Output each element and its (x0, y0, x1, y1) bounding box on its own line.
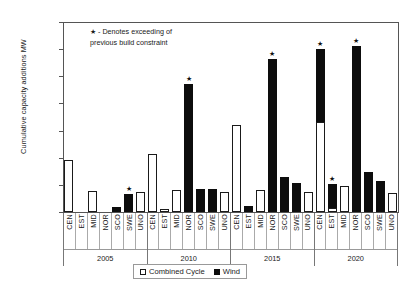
bar-slot-2015-EST[interactable] (242, 22, 254, 212)
bar-2020-SWE[interactable] (376, 181, 385, 212)
bar-slot-2010-MID[interactable] (171, 22, 183, 212)
bar-slot-2020-EST[interactable]: ★ (326, 22, 338, 212)
bar-segment-combined-cycle (172, 190, 181, 212)
bar-2010-MID[interactable] (172, 190, 181, 212)
legend-item-wind[interactable]: Wind (214, 267, 240, 276)
bar-2010-CEN[interactable] (148, 154, 157, 212)
legend-item-combined-cycle[interactable]: Combined Cycle (140, 267, 205, 276)
x-tick-label-EST: EST (243, 213, 255, 249)
x-tick-text: EST (327, 214, 336, 229)
x-tick-label-SWE: SWE (291, 213, 303, 249)
x-tick-text: NOR (101, 214, 110, 231)
bar-segment-wind (316, 49, 325, 122)
bar-segment-combined-cycle (328, 208, 337, 212)
bar-2020-EST[interactable]: ★ (328, 184, 337, 212)
x-tick-label-UNO: UNO (386, 213, 397, 249)
x-tick-text: NOR (184, 214, 193, 231)
bar-slot-2020-UNO[interactable] (386, 22, 398, 212)
x-tick-text: EST (77, 214, 86, 229)
x-tick-label-EST: EST (76, 213, 88, 249)
bar-slot-2015-SCO[interactable] (278, 22, 290, 212)
bar-2010-UNO[interactable] (220, 192, 229, 212)
bar-2005-CEN[interactable] (64, 160, 73, 212)
bar-slot-2015-SWE[interactable] (290, 22, 302, 212)
x-tick-label-EST: EST (326, 213, 338, 249)
bar-slot-2005-SWE[interactable]: ★ (123, 22, 135, 212)
x-tick-text: UNO (303, 214, 312, 231)
bar-slot-2010-UNO[interactable] (219, 22, 231, 212)
bar-segment-wind (208, 189, 217, 212)
bar-slot-2020-MID[interactable] (338, 22, 350, 212)
bar-2005-SCO[interactable] (112, 207, 121, 212)
x-group-label: 2020 (315, 249, 398, 266)
bar-2020-SCO[interactable] (364, 172, 373, 212)
bar-2020-CEN[interactable]: ★ (316, 49, 325, 212)
legend-swatch-icon (140, 269, 146, 275)
x-tick-text: CEN (148, 214, 157, 230)
bar-2010-SCO[interactable] (196, 189, 205, 212)
bar-slot-2010-EST[interactable] (159, 22, 171, 212)
bar-2010-NOR[interactable]: ★ (184, 84, 193, 212)
bar-segment-wind (280, 177, 289, 212)
bar-slot-2020-NOR[interactable]: ★ (350, 22, 362, 212)
bar-2005-MID[interactable] (88, 191, 97, 212)
bar-segment-wind (268, 59, 277, 212)
x-tick-label-CEN: CEN (64, 213, 76, 249)
bar-2010-SWE[interactable] (208, 189, 217, 212)
x-group-2020: CENESTMIDNORSCOSWEUNO2020 (314, 213, 399, 266)
bar-segment-combined-cycle (220, 192, 229, 212)
x-tick-text: EST (244, 214, 253, 229)
bar-segment-wind (352, 46, 361, 212)
bar-segment-combined-cycle (232, 125, 241, 212)
x-tick-text: NOR (268, 214, 277, 231)
bar-2020-MID[interactable] (340, 186, 349, 212)
bar-slot-2020-SCO[interactable] (362, 22, 374, 212)
bar-2015-EST[interactable] (244, 206, 253, 213)
bar-2015-CEN[interactable] (232, 125, 241, 212)
bar-slot-2005-NOR[interactable] (99, 22, 111, 212)
bar-slot-2010-SCO[interactable] (195, 22, 207, 212)
bar-slot-2010-SWE[interactable] (207, 22, 219, 212)
bar-2010-EST[interactable] (160, 209, 169, 212)
bar-group-2005: ★ (63, 22, 147, 212)
bar-2015-UNO[interactable] (304, 192, 313, 212)
bar-2015-SWE[interactable] (292, 183, 301, 212)
x-tick-text: MID (89, 214, 98, 228)
bar-slot-2015-CEN[interactable] (231, 22, 243, 212)
x-group-2010: CENESTMIDNORSCOSWEUNO2010 (147, 213, 231, 266)
bar-segment-combined-cycle (388, 193, 397, 212)
bar-2005-UNO[interactable] (136, 192, 145, 212)
bar-slot-2015-MID[interactable] (254, 22, 266, 212)
bar-2015-MID[interactable] (256, 190, 265, 212)
x-region-labels: CENESTMIDNORSCOSWEUNO (148, 213, 231, 249)
bar-segment-combined-cycle (160, 209, 169, 212)
x-tick-text: SCO (113, 214, 122, 230)
x-group-2005: CENESTMIDNORSCOSWEUNO2005 (63, 213, 147, 266)
bar-slot-2020-SWE[interactable] (374, 22, 386, 212)
x-tick-text: UNO (220, 214, 229, 231)
x-tick-text: SCO (196, 214, 205, 230)
bar-slot-2005-MID[interactable] (87, 22, 99, 212)
legend-label: Wind (223, 267, 240, 276)
bar-slot-2005-EST[interactable] (75, 22, 87, 212)
bar-2020-NOR[interactable]: ★ (352, 46, 361, 212)
bar-slot-2005-UNO[interactable] (135, 22, 147, 212)
x-tick-label-SCO: SCO (195, 213, 207, 249)
x-tick-text: SCO (280, 214, 289, 230)
bar-segment-combined-cycle (136, 192, 145, 212)
bar-2005-SWE[interactable]: ★ (124, 194, 133, 212)
bar-slot-2005-CEN[interactable] (63, 22, 75, 212)
bar-slot-2010-CEN[interactable] (147, 22, 159, 212)
bar-slot-2010-NOR[interactable]: ★ (183, 22, 195, 212)
bar-2015-SCO[interactable] (280, 177, 289, 212)
x-tick-label-UNO: UNO (136, 213, 147, 249)
bar-2020-UNO[interactable] (388, 193, 397, 212)
bar-2015-NOR[interactable]: ★ (268, 59, 277, 212)
x-tick-text: SWE (125, 214, 134, 231)
bar-slot-2015-NOR[interactable]: ★ (266, 22, 278, 212)
bar-slot-2015-UNO[interactable] (302, 22, 314, 212)
bar-slot-2020-CEN[interactable]: ★ (314, 22, 326, 212)
bar-segment-combined-cycle (88, 191, 97, 212)
star-icon: ★ (353, 37, 359, 44)
bar-slot-2005-SCO[interactable] (111, 22, 123, 212)
